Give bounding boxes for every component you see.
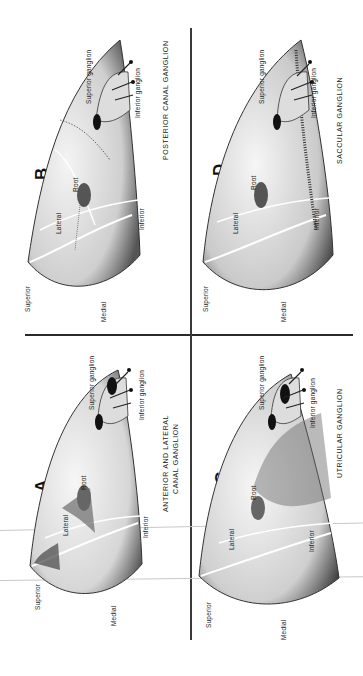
label-inferior: Inferior (142, 516, 149, 538)
label-inferior: Inferior (138, 208, 145, 230)
horizontal-divider (25, 334, 353, 336)
label-inferior-ganglion: Inferior ganglion (134, 68, 141, 118)
panel-caption-line-2: CANAL GANGLION (172, 424, 179, 494)
label-medial: Medial (280, 620, 287, 640)
label-root: Root (72, 177, 79, 192)
label-lateral: Lateral (55, 213, 62, 234)
label-medial: Medial (280, 302, 287, 322)
label-superior-ganglion: Superior ganglion (258, 50, 265, 104)
label-superior: Superior (24, 286, 31, 312)
panel-caption: POSTERIOR CANAL GANGLION (162, 40, 169, 160)
label-lateral: Lateral (232, 213, 239, 234)
label-medial: Medial (110, 606, 117, 626)
panel-caption: SACCULAR GANGLION (336, 77, 343, 164)
label-medial: Medial (100, 302, 107, 322)
label-inferior-ganglion: Inferior ganglion (138, 370, 145, 420)
label-root: Root (80, 475, 87, 490)
label-inferior-ganglion: Inferior ganglion (310, 68, 317, 118)
label-root: Root (250, 485, 257, 500)
label-superior-ganglion: Superior ganglion (85, 50, 92, 104)
label-superior-ganglion: Superior ganglion (258, 356, 265, 410)
label-superior: Superior (34, 584, 41, 610)
panel-caption-line-1: ANTERIOR AND LATERAL (162, 415, 169, 512)
macula-illustration (181, 0, 361, 330)
label-superior: Superior (202, 286, 209, 312)
label-root: Root (250, 175, 257, 190)
label-lateral: Lateral (228, 529, 235, 550)
label-superior-ganglion: Superior ganglion (88, 356, 95, 410)
label-inferior: Inferior (308, 530, 315, 552)
panel-caption: UTRICULAR GANGLION (336, 388, 343, 478)
label-inferior-ganglion: Inferior ganglion (309, 378, 316, 428)
label-superior: Superior (205, 602, 212, 628)
label-lateral: Lateral (62, 515, 69, 536)
label-inferior: Inferior (313, 208, 320, 230)
